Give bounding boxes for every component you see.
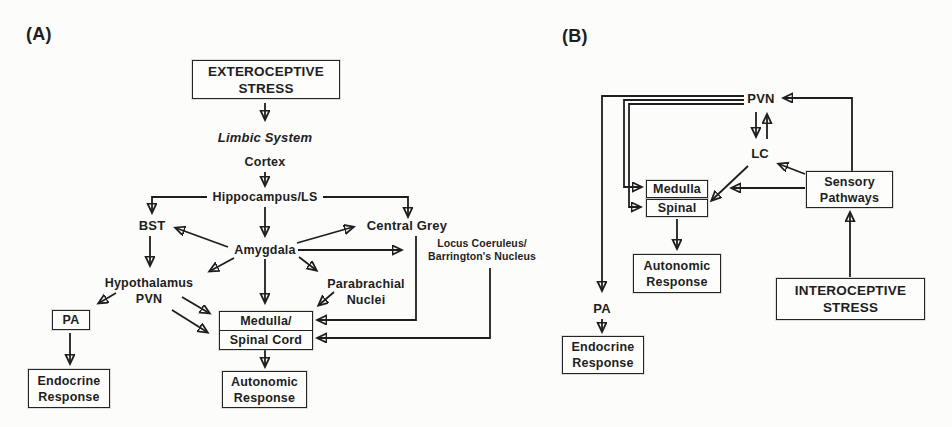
stress-pathways-figure: (A) EXTEROCEPTIVE STRESS Limbic System C… [0, 0, 952, 427]
hypothalamus-line1: Hypothalamus [99, 275, 199, 291]
node-bst: BST [127, 218, 177, 234]
node-pvn-b: PVN [736, 91, 786, 107]
node-autonomic-response-a: Autonomic Response [222, 371, 307, 408]
autonomic-line1: Autonomic [231, 374, 298, 390]
node-medulla-b: Medulla [646, 180, 708, 198]
endocrine-b-line2: Response [572, 355, 633, 371]
arrow-amygdala-to-bst [176, 228, 228, 247]
interoceptive-line1: INTEROCEPTIVE [795, 282, 906, 299]
node-amygdala: Amygdala [225, 242, 305, 258]
sensory-line2: Pathways [820, 190, 879, 206]
node-hypothalamus-pvn: Hypothalamus PVN [99, 275, 199, 307]
node-interoceptive-stress: INTEROCEPTIVE STRESS [776, 278, 925, 320]
arrow-sensory-to-pvn [784, 98, 852, 172]
node-pa-b: PA [582, 301, 622, 317]
node-cortex: Cortex [215, 154, 315, 170]
node-lc-b: LC [740, 146, 780, 162]
node-pa: PA [52, 310, 90, 330]
interoceptive-line2: STRESS [823, 299, 878, 316]
spinal-cord-cell: Spinal Cord [220, 330, 312, 349]
arrow-lc-to-spinal [712, 166, 748, 200]
endocrine-line2: Response [38, 389, 99, 405]
autonomic-b-line2: Response [646, 274, 707, 290]
arrow-hippocampus-to-central-grey [323, 197, 408, 216]
locus-coeruleus-line1: Locus Coeruleus/ [422, 237, 542, 250]
exteroceptive-line2: STRESS [238, 80, 293, 97]
node-parabrachial-nuclei: Parabrachial Nuclei [316, 276, 416, 308]
node-hippocampus-ls: Hippocampus/LS [205, 189, 325, 205]
parabrachial-line2: Nuclei [316, 292, 416, 308]
autonomic-b-line1: Autonomic [643, 258, 710, 274]
parabrachial-line1: Parabrachial [316, 276, 416, 292]
arrow-hippocampus-to-bst [152, 197, 207, 212]
arrows-layer [0, 0, 952, 427]
locus-coeruleus-line2: Barrington's Nucleus [422, 250, 542, 263]
arrow-sensory-to-lc [779, 164, 805, 174]
arrow-amygdala-to-hypothalamus [210, 258, 234, 271]
hypothalamus-line2: PVN [99, 291, 199, 307]
arrow-amygdala-to-parabrachial [299, 257, 316, 270]
node-spinal-b: Spinal [646, 199, 708, 217]
medulla-cell: Medulla/ [220, 312, 312, 330]
node-central-grey: Central Grey [361, 218, 453, 234]
node-exteroceptive-stress: EXTEROCEPTIVE STRESS [192, 60, 340, 99]
arrow-pvn-to-medulla-2 [172, 310, 207, 332]
arrow-amygdala-to-central-grey [297, 227, 353, 243]
sensory-line1: Sensory [824, 174, 875, 190]
autonomic-line2: Response [234, 390, 295, 406]
node-medulla-spinal-cord: Medulla/ Spinal Cord [219, 311, 313, 350]
endocrine-line1: Endocrine [38, 373, 101, 389]
node-autonomic-response-b: Autonomic Response [633, 254, 721, 293]
panel-a-label: (A) [26, 24, 52, 45]
panel-b-label: (B) [562, 26, 588, 47]
node-endocrine-response-a: Endocrine Response [28, 369, 110, 408]
arrow-pvn-to-medulla-b [624, 100, 744, 187]
node-locus-coeruleus-barringtons: Locus Coeruleus/ Barrington's Nucleus [422, 237, 542, 263]
node-limbic-system: Limbic System [195, 130, 335, 146]
node-endocrine-response-b: Endocrine Response [562, 336, 644, 374]
endocrine-b-line1: Endocrine [572, 339, 635, 355]
exteroceptive-line1: EXTEROCEPTIVE [208, 63, 324, 80]
node-sensory-pathways: Sensory Pathways [806, 171, 893, 208]
